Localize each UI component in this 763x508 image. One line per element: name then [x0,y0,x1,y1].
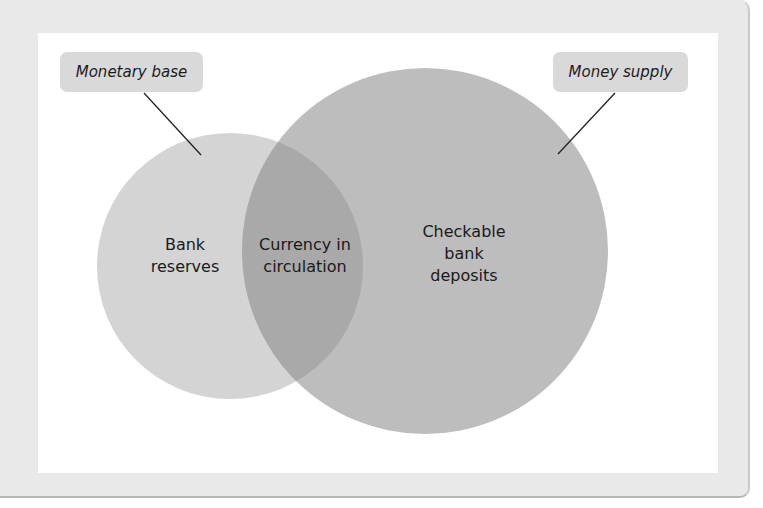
monetary-base-leader-line [144,93,201,155]
money-supply-label: Money supply [569,63,673,81]
checkable-bank-deposits-label: Checkable bank deposits [404,221,524,287]
monetary-base-label: Monetary base [76,63,188,81]
monetary-base-callout: Monetary base [60,52,203,92]
money-supply-callout: Money supply [553,52,688,92]
bank-reserves-label: Bank reserves [130,234,240,278]
currency-in-circulation-label: Currency in circulation [240,234,370,278]
money-supply-leader-line [558,93,615,154]
